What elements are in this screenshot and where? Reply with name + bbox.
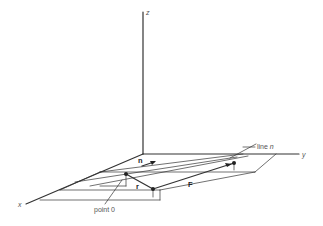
f-vector bbox=[153, 163, 234, 189]
diagram-canvas bbox=[0, 0, 323, 226]
point-0-dot bbox=[124, 172, 128, 176]
line-n-prefix: line bbox=[257, 143, 268, 150]
y-axis-label: y bbox=[302, 151, 306, 158]
x-axis-label: x bbox=[18, 201, 22, 208]
f-end-dot bbox=[232, 161, 236, 165]
r-end-dot bbox=[151, 187, 155, 191]
position-vector-label: r bbox=[136, 183, 139, 191]
line-n-name: n bbox=[270, 143, 274, 150]
normal-vector-label: n bbox=[138, 157, 143, 165]
z-axis-label: z bbox=[146, 9, 150, 16]
line-n-label: line n bbox=[257, 143, 274, 150]
point-0-label: point 0 bbox=[94, 206, 115, 213]
force-vector-label: F bbox=[188, 181, 193, 189]
